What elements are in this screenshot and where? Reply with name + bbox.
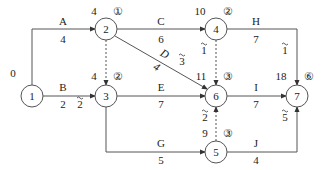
activity-name-g: G bbox=[157, 137, 165, 149]
node-label-1: 1 bbox=[29, 90, 35, 102]
node-label-4: 4 bbox=[213, 23, 219, 35]
activity-duration-h: 7 bbox=[253, 33, 259, 45]
activity-duration-a: 4 bbox=[60, 33, 66, 45]
node-time-3: 4 bbox=[91, 70, 97, 82]
activity-duration-e: 7 bbox=[158, 98, 164, 110]
activity-name-e: E bbox=[158, 81, 165, 93]
activity-arrow-g bbox=[106, 107, 205, 152]
node-time-6: 11 bbox=[196, 70, 207, 82]
activity-name-i: I bbox=[254, 81, 258, 93]
network-diagram: 1234675 1204①4②10②11③18⑥9③A4B22C6D43E7G5… bbox=[0, 0, 325, 170]
activity-name-j: J bbox=[254, 137, 259, 149]
activity-arrow-h bbox=[227, 29, 297, 85]
activity-duration-b: 2 bbox=[60, 98, 66, 110]
activity-duration-d: 4 bbox=[152, 60, 163, 73]
node-label-7: 7 bbox=[294, 90, 300, 102]
node-time-5: 9 bbox=[202, 127, 208, 139]
activity-name-h: H bbox=[252, 15, 260, 27]
node-label-3: 3 bbox=[103, 90, 109, 102]
activity-name-b: B bbox=[59, 81, 66, 93]
activity-float-j: 5 bbox=[282, 111, 288, 123]
node-circled-7: ⑥ bbox=[304, 70, 314, 82]
node-time-7: 18 bbox=[276, 70, 288, 82]
node-circled-4: ② bbox=[223, 5, 233, 17]
node-circled-5: ③ bbox=[223, 127, 233, 139]
node-circled-6: ③ bbox=[223, 70, 233, 82]
activity-float-d: 3 bbox=[179, 55, 185, 67]
node-circled-3: ② bbox=[113, 70, 123, 82]
dummy-float-4-6: 1 bbox=[201, 44, 207, 56]
node-time-4: 10 bbox=[195, 5, 207, 17]
node-label-2: 2 bbox=[103, 23, 109, 35]
node-circled-2: ① bbox=[113, 5, 123, 17]
activity-float-b: 2 bbox=[77, 98, 83, 110]
activity-duration-j: 4 bbox=[253, 154, 259, 166]
activity-name-c: C bbox=[157, 15, 164, 27]
node-label-6: 6 bbox=[213, 90, 219, 102]
activity-duration-g: 5 bbox=[158, 154, 164, 166]
activity-name-d: D bbox=[158, 46, 172, 61]
dummy-float-5-6: 2 bbox=[202, 111, 208, 123]
node-label-5: 5 bbox=[213, 146, 219, 158]
node-time-2: 4 bbox=[91, 5, 97, 17]
activity-name-a: A bbox=[59, 15, 67, 27]
activity-duration-c: 6 bbox=[158, 33, 164, 45]
node-time-1: 0 bbox=[10, 67, 16, 79]
activity-float-h: 1 bbox=[282, 44, 288, 56]
activity-duration-i: 7 bbox=[253, 98, 259, 110]
